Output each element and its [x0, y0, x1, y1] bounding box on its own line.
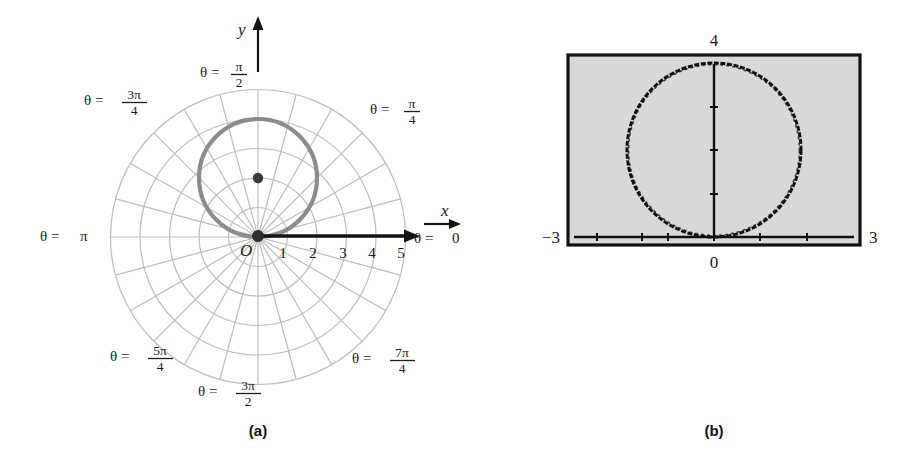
theta-3pi-over-4-denominator: 4: [131, 103, 138, 118]
angle-label-theta-5pi-over-4: θ = 5π 4: [110, 343, 173, 374]
curve-center-point: [253, 173, 263, 183]
theta-pi-over-4-lhs: θ =: [370, 101, 389, 117]
radial-tick-4: 4: [368, 245, 376, 261]
angle-label-theta-pi: θ = π: [40, 228, 88, 244]
radial-tick-3: 3: [339, 245, 347, 261]
polar-spoke-195deg: [116, 237, 258, 275]
theta-3pi-over-4-lhs: θ =: [84, 92, 103, 108]
x-axis-arrow: [424, 219, 461, 229]
theta-pi-over-2-lhs: θ =: [200, 64, 219, 80]
angle-label-theta-pi-over-4: θ = π 4: [370, 96, 420, 127]
theta-pi-over-4-denominator: 4: [409, 112, 416, 127]
theta-3pi-over-4-numerator: 3π: [127, 87, 141, 102]
angle-label-theta-zero: θ = 0: [414, 230, 460, 246]
polar-spoke-30deg: [258, 163, 386, 237]
window-xmax-label: 3: [869, 228, 878, 247]
theta-7pi-over-4-numerator: 7π: [395, 345, 409, 360]
angle-label-theta-pi-over-2: θ = π 2: [200, 59, 247, 90]
origin-label: O: [240, 241, 252, 260]
figure-root: O y x 1 2 3 4 5 θ = π 2: [0, 0, 900, 464]
polar-spoke-105deg: [220, 95, 258, 237]
theta-5pi-over-4-lhs: θ =: [110, 348, 129, 364]
radial-tick-2: 2: [309, 245, 317, 261]
angle-label-theta-3pi-over-4: θ = 3π 4: [84, 87, 147, 118]
polar-spoke-60deg: [258, 109, 332, 237]
y-axis-label: y: [236, 20, 246, 39]
theta-pi-lhs: θ =: [40, 228, 59, 244]
theta-3pi-over-2-numerator: 3π: [241, 378, 255, 393]
radial-tick-5: 5: [397, 245, 405, 261]
theta-zero-value: 0: [452, 230, 460, 246]
polar-spoke-285deg: [258, 237, 296, 379]
angle-label-theta-7pi-over-4: θ = 7π 4: [352, 345, 415, 376]
radial-tick-1: 1: [279, 245, 287, 261]
polar-spoke-75deg: [258, 95, 296, 237]
polar-spoke-330deg: [258, 237, 386, 311]
polar-spoke-300deg: [258, 237, 332, 365]
theta-pi-value: π: [80, 228, 88, 244]
theta-pi-over-2-numerator: π: [236, 59, 243, 74]
polar-spoke-150deg: [130, 163, 258, 237]
theta-3pi-over-2-denominator: 2: [245, 394, 252, 409]
panel-a-caption: (a): [249, 422, 267, 439]
angle-label-theta-3pi-over-2: θ = 3π 2: [198, 378, 261, 409]
theta-7pi-over-4-denominator: 4: [399, 361, 406, 376]
window-ymax-label: 4: [710, 31, 719, 50]
theta-pi-over-2-denominator: 2: [236, 75, 243, 90]
window-xmin-label: −3: [542, 228, 560, 247]
polar-spoke-120deg: [184, 109, 258, 237]
theta-5pi-over-4-numerator: 5π: [153, 343, 167, 358]
theta-pi-over-4-numerator: π: [409, 96, 416, 111]
window-origin-label: 0: [710, 253, 719, 272]
theta-3pi-over-2-lhs: θ =: [198, 383, 217, 399]
panel-b-svg: 4 −3 3 0 (b): [470, 0, 900, 464]
panel-a-polar-plot: O y x 1 2 3 4 5 θ = π 2: [0, 0, 470, 464]
theta-7pi-over-4-lhs: θ =: [352, 350, 371, 366]
x-axis-label: x: [440, 201, 449, 220]
panel-b-calculator-screen: 4 −3 3 0 (b): [470, 0, 900, 464]
theta-zero-lhs: θ =: [414, 230, 433, 246]
panel-b-caption: (b): [704, 422, 723, 439]
origin-point: [252, 230, 264, 242]
y-axis-arrow: [253, 16, 264, 72]
polar-spoke-210deg: [130, 237, 258, 311]
theta-5pi-over-4-denominator: 4: [157, 359, 164, 374]
panel-a-svg: O y x 1 2 3 4 5 θ = π 2: [0, 0, 470, 464]
